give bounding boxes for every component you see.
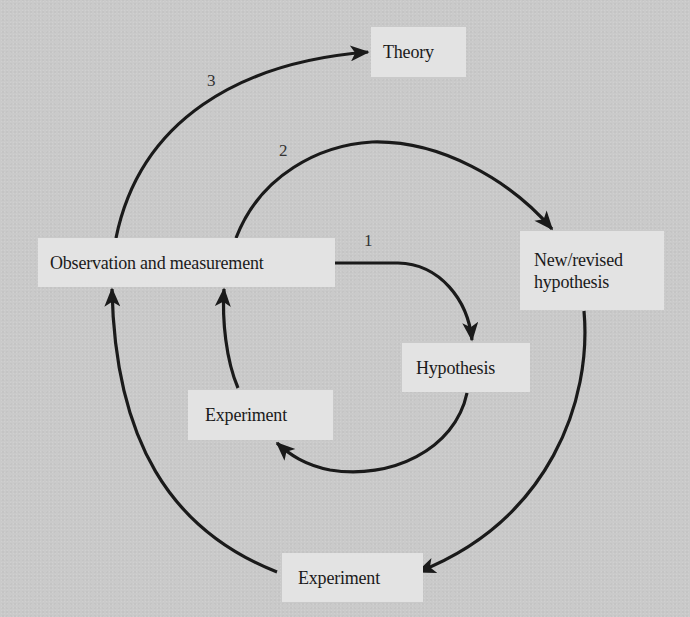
arrow-observation-to-theory: [116, 52, 368, 238]
node-label: Experiment: [298, 567, 380, 589]
loop-label-2: 2: [279, 141, 288, 161]
arrow-observation-to-hypothesis: [330, 263, 472, 340]
loop-label-3: 3: [207, 71, 216, 91]
node-observation-and-measurement: Observation and measurement: [38, 238, 335, 287]
node-label: Hypothesis: [416, 357, 495, 379]
node-theory: Theory: [371, 27, 466, 77]
node-new-revised-hypothesis: New/revised hypothesis: [520, 231, 664, 310]
node-experiment-outer: Experiment: [282, 553, 423, 602]
node-label: Theory: [383, 41, 434, 63]
loop-label-1: 1: [364, 231, 373, 251]
node-label: Experiment: [205, 404, 287, 426]
node-label: Observation and measurement: [50, 252, 264, 274]
node-experiment-inner: Experiment: [188, 390, 333, 440]
node-label: New/revised hypothesis: [534, 249, 623, 293]
node-hypothesis: Hypothesis: [402, 343, 530, 392]
arrow-experiment-to-observation-inner: [224, 289, 238, 388]
